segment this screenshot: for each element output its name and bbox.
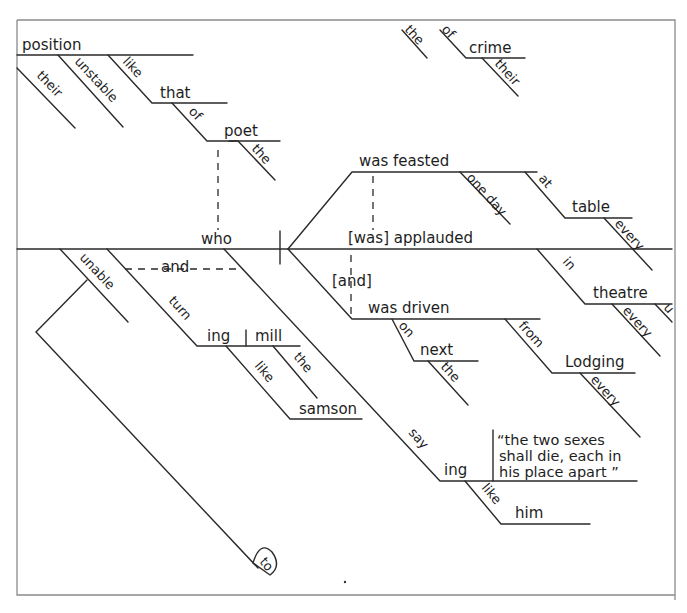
- word-that: that: [160, 84, 191, 102]
- word-of-top: of: [439, 22, 459, 42]
- quote-line-1: “the two sexes: [497, 432, 605, 448]
- word-mill: mill: [255, 327, 282, 345]
- word-poet: poet: [224, 122, 258, 140]
- word-who: who: [201, 230, 232, 248]
- word-was-driven: was driven: [368, 299, 450, 317]
- stray-dot: [344, 581, 346, 583]
- word-on: on: [396, 318, 418, 340]
- word-like-1: like: [120, 54, 146, 81]
- word-samson: samson: [299, 400, 357, 418]
- word-the-top: the: [402, 22, 428, 48]
- quote-line-3: his place apart ”: [499, 464, 619, 480]
- word-the-1: the: [249, 141, 274, 167]
- word-him: him: [515, 504, 543, 522]
- word-table: table: [572, 198, 610, 216]
- word-every-1: every: [612, 216, 648, 254]
- word-was-feasted: was feasted: [359, 152, 449, 170]
- word-crime: crime: [469, 39, 511, 57]
- modifier-line-the-3: [273, 346, 317, 398]
- word-was-applauded: [was] applauded: [348, 229, 473, 247]
- quote-line-2: shall die, each in: [499, 448, 621, 464]
- sentence-diagram: position their unstable like that of poe…: [0, 0, 687, 613]
- word-turn: turn: [166, 293, 195, 323]
- diagram-frame: [17, 20, 675, 600]
- word-their-1: their: [34, 68, 66, 101]
- infinitive-line-to: [36, 280, 258, 568]
- word-ing-2: ing: [444, 461, 467, 479]
- word-one-day: one day: [464, 170, 510, 219]
- word-every-3: every: [588, 372, 624, 410]
- word-in: in: [560, 254, 579, 273]
- word-every-2: every: [620, 303, 656, 341]
- diagram-canvas: position their unstable like that of poe…: [0, 0, 687, 613]
- word-position: position: [22, 36, 81, 54]
- word-unable: unable: [77, 250, 118, 293]
- word-ing-1: ing: [207, 327, 230, 345]
- word-theatre: theatre: [593, 284, 648, 302]
- word-next: next: [420, 341, 453, 359]
- word-and-dash: and: [161, 258, 189, 276]
- word-and-bracket: [and]: [332, 272, 372, 290]
- word-from: from: [516, 318, 547, 351]
- word-lodging: Lodging: [565, 353, 625, 371]
- word-the-2: the: [438, 359, 463, 385]
- word-like-2: like: [252, 358, 278, 385]
